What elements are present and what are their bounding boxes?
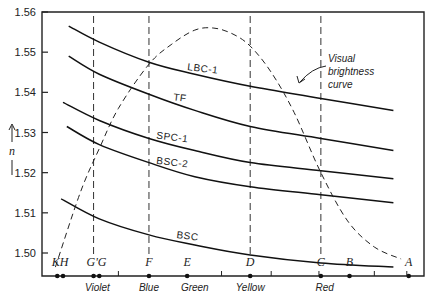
fraunhofer-label: B [346, 255, 354, 269]
brightness-annotation-line: curve [328, 79, 353, 90]
color-band-label-green: Green [181, 282, 209, 293]
y-tick-label: 1.53 [15, 127, 36, 139]
y-tick-label: 1.51 [15, 207, 36, 219]
brightness-annotation-line: Visual [328, 53, 356, 64]
fraunhofer-dot [55, 274, 60, 279]
fraunhofer-dot [185, 274, 190, 279]
series-line-bsc [61, 199, 393, 267]
fraunhofer-dot [347, 274, 352, 279]
fraunhofer-label: C [317, 255, 326, 269]
color-band-label-blue: Blue [139, 282, 159, 293]
fraunhofer-dot [147, 274, 152, 279]
fraunhofer-label: F [144, 255, 153, 269]
y-tick-label: 1.55 [15, 46, 36, 58]
y-tick-label: 1.56 [15, 6, 36, 18]
annotation-arrow-head [297, 76, 305, 83]
series-line-spc-1 [63, 102, 393, 178]
fraunhofer-label: D [245, 255, 255, 269]
fraunhofer-label: E [182, 255, 191, 269]
y-axis-label: n [9, 144, 15, 158]
color-band-label-violet: Violet [85, 282, 111, 293]
fraunhofer-label: KH [51, 255, 70, 269]
fraunhofer-label: A [404, 255, 413, 269]
refractive-index-chart: 1.501.511.521.531.541.551.56n LBC-1TFSPC… [0, 0, 434, 294]
fraunhofer-label: G'G [86, 255, 106, 269]
color-band-label-yellow: Yellow [236, 282, 266, 293]
y-tick-label: 1.52 [15, 167, 36, 179]
fraunhofer-dot [61, 274, 66, 279]
fraunhofer-dot [248, 274, 253, 279]
color-band-label-red: Red [316, 282, 335, 293]
fraunhofer-dot [97, 274, 102, 279]
y-tick-label: 1.54 [15, 86, 36, 98]
brightness-annotation-line: brightness [328, 66, 374, 77]
fraunhofer-dot [91, 274, 96, 279]
series-line-bsc-2 [67, 127, 394, 203]
y-tick-label: 1.50 [15, 247, 36, 259]
series-line-bsc-label: BSC [176, 229, 199, 243]
series-line-tf-label: TF [173, 91, 187, 104]
